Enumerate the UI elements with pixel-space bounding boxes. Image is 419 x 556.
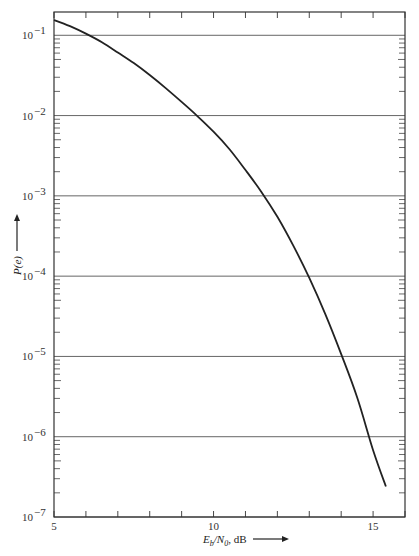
- minor-ticks: [54, 39, 405, 493]
- x-tick-label: 5: [51, 520, 57, 532]
- y-tick-exponent: −6: [34, 426, 46, 438]
- svg-text:P(e): P(e): [11, 256, 24, 276]
- y-tick-exponent: −1: [34, 24, 46, 36]
- y-tick-label: 10: [22, 29, 34, 41]
- plot-frame: [54, 12, 405, 517]
- y-tick-exponent: −2: [34, 105, 46, 117]
- x-axis-label: Eb/N0, dB: [202, 533, 289, 548]
- x-axis-ticks: [54, 12, 405, 517]
- y-axis-tick-labels: 10−110−210−310−410−510−610−7: [22, 24, 46, 523]
- y-axis-label: P(e): [11, 214, 24, 276]
- y-tick-exponent: −4: [34, 265, 46, 277]
- gridlines: [54, 35, 405, 517]
- x-tick-label: 10: [208, 520, 220, 532]
- x-axis-arrowhead-icon: [282, 536, 289, 542]
- y-tick-label: 10: [22, 110, 34, 122]
- y-axis-arrowhead-icon: [14, 214, 20, 221]
- y-tick-label: 10: [22, 350, 34, 362]
- x-axis-tick-labels: 51015: [51, 520, 379, 532]
- svg-text:Eb/N0, dB: Eb/N0, dB: [202, 533, 246, 548]
- error-probability-curve: [54, 20, 386, 487]
- y-tick-label: 10: [22, 511, 34, 523]
- y-tick-label: 10: [22, 270, 34, 282]
- x-tick-label: 15: [368, 520, 380, 532]
- y-tick-label: 10: [22, 190, 34, 202]
- y-tick-exponent: −7: [34, 506, 46, 518]
- chart-canvas: 10−110−210−310−410−510−610−7 51015 Eb/N0…: [0, 0, 419, 556]
- y-tick-label: 10: [22, 431, 34, 443]
- y-tick-exponent: −3: [34, 185, 46, 197]
- y-tick-exponent: −5: [34, 345, 46, 357]
